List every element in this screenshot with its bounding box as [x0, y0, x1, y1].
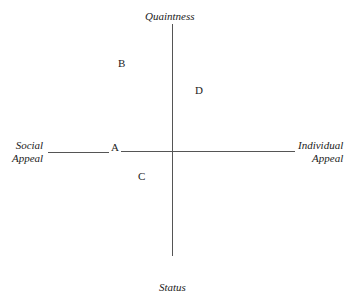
- point-c: C: [138, 170, 145, 182]
- axis-label-bottom: Status: [159, 281, 186, 294]
- horizontal-axis-right-segment: [121, 151, 295, 152]
- point-b: B: [118, 57, 125, 69]
- axis-label-right-line2: Appeal: [298, 152, 343, 165]
- axis-label-right: Individual Appeal: [298, 139, 343, 165]
- axis-label-top: Quaintness: [145, 10, 195, 23]
- point-d: D: [195, 84, 203, 96]
- axis-label-left: Social Appeal: [12, 139, 43, 165]
- horizontal-axis-left-segment: [48, 152, 109, 153]
- axis-label-right-line1: Individual: [298, 139, 343, 152]
- axis-label-left-line2: Appeal: [12, 152, 43, 165]
- axis-label-left-line1: Social: [12, 139, 43, 152]
- vertical-axis: [172, 24, 173, 256]
- point-a: A: [111, 141, 119, 153]
